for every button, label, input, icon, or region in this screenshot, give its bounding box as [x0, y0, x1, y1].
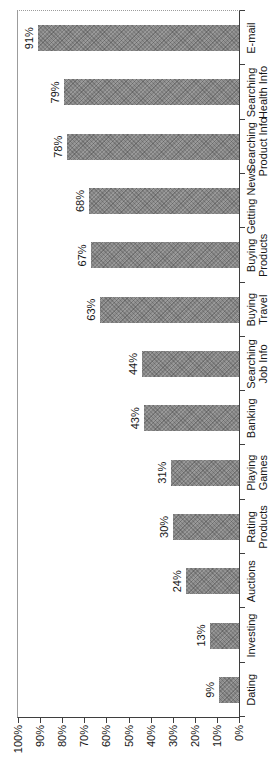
category-axis-tick: [240, 282, 245, 283]
value-axis-tick: [195, 718, 196, 723]
category-label-searching-health-info: SearchingHealth Info: [246, 66, 269, 119]
rotated-chart-canvas: 9%13%24%30%31%43%44%63%67%68%78%79%91% 0…: [0, 0, 280, 772]
category-label-searching-job-info: SearchingJob Info: [246, 339, 269, 389]
category-label-dating: Dating: [246, 674, 258, 706]
value-axis-tick-label: 60%: [100, 725, 112, 772]
category-label-line: Product Info: [258, 117, 270, 176]
category-axis-tick: [240, 119, 245, 120]
bar-investing: [210, 623, 239, 649]
bar-value-label: 44%: [128, 353, 139, 375]
category-axis-tick: [240, 64, 245, 65]
value-axis-tick-label: 40%: [145, 725, 157, 772]
category-label-line: Products: [258, 234, 270, 277]
bar-value-label: 67%: [77, 244, 88, 266]
category-axis-tick: [240, 716, 245, 717]
value-axis-tick: [129, 718, 130, 723]
bar-value-label: 79%: [50, 81, 61, 103]
value-axis-tick: [151, 718, 152, 723]
bar-value-label: 30%: [159, 516, 170, 538]
value-axis-tick-label: 70%: [78, 725, 90, 772]
category-axis-tick: [240, 607, 245, 608]
category-label-line: E-mail: [246, 23, 258, 54]
bar-value-label: 68%: [75, 190, 86, 212]
bar-searching-health-info: [64, 79, 239, 105]
bar-buying-products: [91, 242, 239, 268]
category-label-line: Games: [258, 455, 270, 491]
category-label-line: Buying: [246, 234, 258, 277]
category-axis-tick: [240, 553, 245, 554]
category-axis-tick: [240, 10, 245, 11]
category-axis-tick: [240, 336, 245, 337]
bar-rating-products: [173, 514, 239, 540]
category-label-auctions: Auctions: [246, 560, 258, 602]
category-label-line: Job Info: [258, 339, 270, 389]
category-label-line: Rating: [246, 505, 258, 548]
category-label-e-mail: E-mail: [246, 23, 258, 54]
value-axis-tick-label: 0%: [233, 725, 245, 772]
category-label-line: Buying: [246, 293, 258, 327]
value-axis-tick-label: 90%: [34, 725, 46, 772]
bar-playing-games: [171, 460, 240, 486]
value-axis-tick: [40, 718, 41, 723]
value-axis-tick: [106, 718, 107, 723]
bar-value-label: 91%: [24, 27, 35, 49]
category-label-line: Dating: [246, 674, 258, 706]
category-label-line: Travel: [258, 293, 270, 327]
value-axis-tick: [84, 718, 85, 723]
bar-value-label: 9%: [205, 682, 216, 698]
bar-searching-product-info: [67, 134, 239, 160]
bar-searching-job-info: [142, 351, 239, 377]
category-axis-tick: [240, 662, 245, 663]
value-axis-tick-label: 80%: [56, 725, 68, 772]
category-label-line: Health Info: [258, 66, 270, 119]
category-label-playing-games: PlayingGames: [246, 455, 269, 491]
bar-value-label: 13%: [196, 625, 207, 647]
category-label-searching-product-info: SearchingProduct Info: [246, 117, 269, 176]
category-label-investing: Investing: [246, 614, 258, 658]
value-axis-tick-label: 30%: [167, 725, 179, 772]
value-axis-tick-label: 20%: [189, 725, 201, 772]
value-axis-tick: [62, 718, 63, 723]
value-axis-tick: [18, 718, 19, 723]
bar-dating: [219, 677, 239, 703]
category-axis-tick: [240, 499, 245, 500]
value-axis-tick: [173, 718, 174, 723]
plot-area: 9%13%24%30%31%43%44%63%67%68%78%79%91%: [17, 10, 240, 718]
category-label-line: Products: [258, 505, 270, 548]
bar-buying-travel: [100, 297, 239, 323]
bar-banking: [144, 405, 239, 431]
bar-getting-news: [89, 188, 239, 214]
value-axis-tick-label: 50%: [123, 725, 135, 772]
category-label-line: Auctions: [246, 560, 258, 602]
category-axis-tick: [240, 444, 245, 445]
bar-value-label: 63%: [86, 299, 97, 321]
value-axis-tick-label: 10%: [211, 725, 223, 772]
bar-value-label: 24%: [172, 570, 183, 592]
category-label-line: Investing: [246, 614, 258, 658]
value-axis-tick-label: 100%: [12, 725, 24, 772]
value-axis-tick: [217, 718, 218, 723]
category-label-buying-products: BuyingProducts: [246, 234, 269, 277]
category-axis-tick: [240, 390, 245, 391]
chart-screenshot: 9%13%24%30%31%43%44%63%67%68%78%79%91% 0…: [0, 0, 280, 772]
bar-auctions: [186, 568, 239, 594]
category-label-line: Getting News: [246, 168, 258, 234]
category-label-getting-news: Getting News: [246, 168, 258, 234]
category-label-line: Playing: [246, 455, 258, 491]
category-label-line: Banking: [246, 398, 258, 438]
value-axis-tick: [239, 718, 240, 723]
category-label-banking: Banking: [246, 398, 258, 438]
category-label-line: Searching: [246, 117, 258, 176]
bar-e-mail: [38, 25, 239, 51]
category-label-line: Searching: [246, 66, 258, 119]
category-label-rating-products: RatingProducts: [246, 505, 269, 548]
bar-value-label: 31%: [157, 462, 168, 484]
category-label-buying-travel: BuyingTravel: [246, 293, 269, 327]
bar-value-label: 43%: [130, 407, 141, 429]
bar-value-label: 78%: [53, 136, 64, 158]
category-label-line: Searching: [246, 339, 258, 389]
